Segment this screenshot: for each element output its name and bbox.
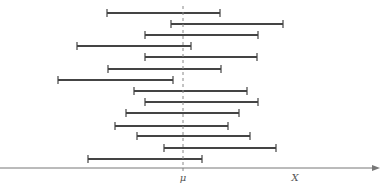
confidence-interval: [108, 65, 221, 73]
confidence-interval: [171, 20, 283, 28]
confidence-interval: [134, 87, 247, 95]
confidence-interval: [107, 9, 220, 17]
confidence-interval: [77, 42, 191, 50]
axis-arrow-icon: [372, 165, 380, 171]
confidence-interval: [88, 155, 202, 163]
interval-group: [58, 9, 283, 163]
confidence-interval: [145, 53, 257, 61]
confidence-interval: [164, 144, 276, 152]
confidence-interval: [137, 132, 250, 140]
confidence-interval: [115, 122, 228, 130]
confidence-interval: [145, 31, 258, 39]
confidence-interval: [58, 76, 173, 84]
confidence-interval-diagram: μ X: [0, 0, 383, 190]
x-axis-label: X: [290, 172, 299, 183]
mean-label: μ: [180, 172, 187, 183]
confidence-interval: [145, 98, 258, 106]
